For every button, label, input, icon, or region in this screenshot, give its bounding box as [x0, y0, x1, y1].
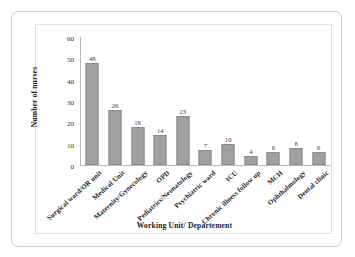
- bar[interactable]: [108, 110, 121, 165]
- bar[interactable]: [199, 150, 212, 165]
- bar-group: 14: [149, 37, 172, 165]
- bar-group: 48: [81, 37, 104, 165]
- x-axis-category-label: OPD: [155, 169, 172, 185]
- x-axis-category-label: Psychiatric ward: [173, 169, 217, 210]
- bar-value-label: 6: [317, 144, 320, 151]
- y-axis-ticks: 0102030405060: [54, 39, 74, 165]
- bar-value-label: 8: [294, 140, 297, 147]
- bar[interactable]: [222, 144, 235, 165]
- y-axis-tick-label: 50: [54, 57, 74, 64]
- y-axis-tick-label: 40: [54, 78, 74, 85]
- y-axis-title: Number of nurses: [30, 49, 42, 145]
- bar-group: 6: [262, 37, 285, 165]
- bar[interactable]: [290, 148, 303, 165]
- bar[interactable]: [176, 116, 189, 165]
- y-axis-tick-label: 0: [54, 164, 74, 171]
- bar[interactable]: [131, 127, 144, 165]
- chart-plot-area: Number of nurses 0102030405060 482618142…: [35, 24, 332, 234]
- bar-value-label: 23: [180, 108, 187, 115]
- y-axis-tick-label: 20: [54, 121, 74, 128]
- bar-group: 26: [104, 37, 127, 165]
- bar[interactable]: [312, 152, 325, 165]
- bar-group: 10: [217, 37, 240, 165]
- bar[interactable]: [86, 63, 99, 165]
- bar-value-label: 4: [249, 148, 252, 155]
- bar-group: 8: [285, 37, 308, 165]
- bar-value-label: 7: [204, 142, 207, 149]
- bars-area: 48261814237104686: [81, 37, 330, 165]
- y-axis-tick-label: 60: [54, 36, 74, 43]
- bar-group: 6: [307, 37, 330, 165]
- bar-group: 18: [126, 37, 149, 165]
- y-axis-tick-label: 30: [54, 100, 74, 107]
- bar-value-label: 18: [134, 119, 141, 126]
- bar-group: 7: [194, 37, 217, 165]
- caption-remnant: [6, 0, 166, 9]
- bar[interactable]: [244, 156, 257, 165]
- bar-group: 23: [172, 37, 195, 165]
- y-axis-tick-label: 10: [54, 142, 74, 149]
- bar-value-label: 26: [112, 102, 119, 109]
- x-axis-category-label: MCH: [266, 169, 284, 187]
- bar-group: 4: [239, 37, 262, 165]
- x-axis-category-label: ICU: [224, 169, 239, 184]
- bar-value-label: 10: [225, 136, 232, 143]
- x-axis-title: Working Unit/ Departement: [36, 221, 333, 230]
- bar-value-label: 6: [272, 144, 275, 151]
- bar[interactable]: [154, 135, 167, 165]
- bar-value-label: 14: [157, 127, 164, 134]
- bar[interactable]: [267, 152, 280, 165]
- x-axis-line: [80, 165, 330, 166]
- figure-frame: Number of nurses 0102030405060 482618142…: [11, 11, 342, 247]
- bar-value-label: 48: [89, 55, 96, 62]
